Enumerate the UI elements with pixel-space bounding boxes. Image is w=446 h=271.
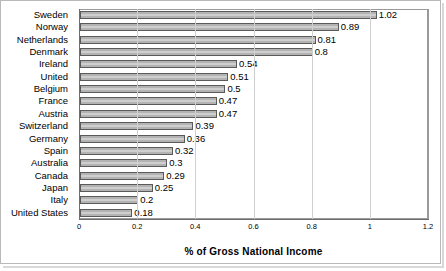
category-label: Canada bbox=[0, 170, 68, 182]
bar bbox=[80, 36, 316, 44]
category-label: United States bbox=[0, 207, 68, 219]
gridline bbox=[137, 9, 138, 219]
x-tick-label: 0.4 bbox=[180, 222, 210, 231]
bar-row: Netherlands0.81 bbox=[1, 34, 440, 46]
bar-row: Belgium0.5 bbox=[1, 83, 440, 95]
x-tick-label: 0.8 bbox=[297, 222, 327, 231]
bar-row: Spain0.32 bbox=[1, 145, 440, 157]
bar-row: Sweden1.02 bbox=[1, 9, 440, 21]
bar bbox=[80, 159, 167, 167]
bar-value-label: 0.39 bbox=[195, 120, 214, 132]
bar-row: Italy0.2 bbox=[1, 194, 440, 206]
bar-value-label: 0.89 bbox=[341, 21, 360, 33]
bar-row: Japan0.25 bbox=[1, 182, 440, 194]
bar-value-label: 0.54 bbox=[239, 58, 258, 70]
category-label: Ireland bbox=[0, 58, 68, 70]
category-label: Netherlands bbox=[0, 34, 68, 46]
bar bbox=[80, 184, 153, 192]
category-label: Denmark bbox=[0, 46, 68, 58]
bar bbox=[80, 196, 138, 204]
bar-value-label: 0.47 bbox=[219, 95, 238, 107]
category-label: France bbox=[0, 95, 68, 107]
frame-shadow-bottom bbox=[3, 266, 444, 268]
chart-frame: Sweden1.02Norway0.89Netherlands0.81Denma… bbox=[0, 0, 441, 264]
category-label: Belgium bbox=[0, 83, 68, 95]
bar-row: Denmark0.8 bbox=[1, 46, 440, 58]
bar bbox=[80, 135, 185, 143]
bar-row: Ireland0.54 bbox=[1, 58, 440, 70]
bar-row: United States0.18 bbox=[1, 207, 440, 219]
bar bbox=[80, 60, 237, 68]
bar bbox=[80, 147, 173, 155]
bar-value-label: 0.29 bbox=[166, 170, 185, 182]
category-label: Spain bbox=[0, 145, 68, 157]
gridline bbox=[312, 9, 313, 219]
bar-row: Austria0.47 bbox=[1, 108, 440, 120]
category-label: Switzerland bbox=[0, 120, 68, 132]
frame-shadow-right bbox=[442, 3, 444, 267]
bar bbox=[80, 48, 313, 56]
category-label: Sweden bbox=[0, 9, 68, 21]
bar-row: Germany0.36 bbox=[1, 133, 440, 145]
x-tick-label: 0 bbox=[64, 222, 94, 231]
bar-row: France0.47 bbox=[1, 95, 440, 107]
category-label: Austria bbox=[0, 108, 68, 120]
bar bbox=[80, 172, 164, 180]
bar-row: Norway0.89 bbox=[1, 21, 440, 33]
bar bbox=[80, 11, 377, 19]
x-tick-label: 1 bbox=[355, 222, 385, 231]
gridline bbox=[195, 9, 196, 219]
category-label: Germany bbox=[0, 133, 68, 145]
category-label: Australia bbox=[0, 157, 68, 169]
bar-value-label: 1.02 bbox=[379, 9, 398, 21]
bar-row: United0.51 bbox=[1, 71, 440, 83]
x-axis-line bbox=[79, 219, 429, 220]
bar-row: Canada0.29 bbox=[1, 170, 440, 182]
x-tick-label: 0.2 bbox=[122, 222, 152, 231]
bar bbox=[80, 85, 225, 93]
bar-value-label: 0.8 bbox=[315, 46, 328, 58]
bar-value-label: 0.81 bbox=[318, 34, 337, 46]
bar bbox=[80, 209, 132, 217]
bar-value-label: 0.32 bbox=[175, 145, 194, 157]
category-label: United bbox=[0, 71, 68, 83]
bar-value-label: 0.25 bbox=[155, 182, 174, 194]
category-label: Italy bbox=[0, 194, 68, 206]
bar-row: Switzerland0.39 bbox=[1, 120, 440, 132]
bar-value-label: 0.3 bbox=[169, 157, 182, 169]
bar-value-label: 0.47 bbox=[219, 108, 238, 120]
bar-value-label: 0.5 bbox=[227, 83, 240, 95]
bar-row: Australia0.3 bbox=[1, 157, 440, 169]
bar bbox=[80, 23, 339, 31]
gridline bbox=[428, 9, 429, 219]
x-axis-title: % of Gross National Income bbox=[79, 246, 428, 257]
category-label: Norway bbox=[0, 21, 68, 33]
gridline bbox=[370, 9, 371, 219]
gridline bbox=[254, 9, 255, 219]
bar-value-label: 0.2 bbox=[140, 194, 153, 206]
x-tick-label: 1.2 bbox=[413, 222, 443, 231]
bar-value-label: 0.51 bbox=[230, 71, 249, 83]
category-label: Japan bbox=[0, 182, 68, 194]
bar bbox=[80, 73, 228, 81]
x-tick-label: 0.6 bbox=[239, 222, 269, 231]
